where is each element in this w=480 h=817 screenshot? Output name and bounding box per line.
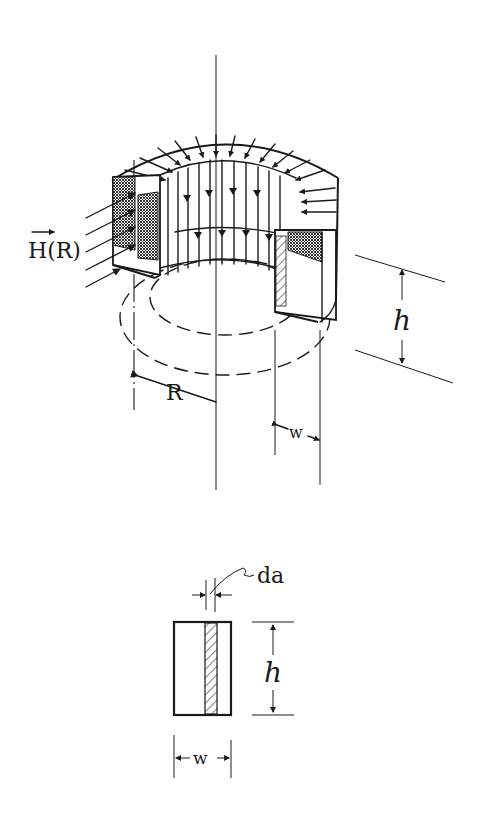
right-cut-section	[275, 178, 338, 322]
hatched-strip	[205, 623, 217, 714]
cs-width-label: w	[193, 748, 208, 768]
w-dim-arrow-left	[277, 425, 288, 429]
w-dim-arrow-right	[308, 436, 319, 440]
diagram-canvas: H(R) R w h da h	[0, 0, 480, 817]
cross-section-view: da h w	[174, 563, 294, 778]
cs-height-label: h	[264, 656, 282, 689]
ring-top-inner-arc	[160, 161, 296, 178]
left-cut-section	[113, 175, 160, 278]
field-label-group: H(R)	[28, 232, 81, 263]
width-label: w	[289, 423, 303, 442]
inner-wall-bottom-arc	[160, 260, 292, 272]
da-leader-line	[210, 568, 254, 594]
cross-section-rectangle	[174, 622, 231, 715]
strip-label: da	[257, 563, 284, 588]
field-label: H(R)	[28, 238, 81, 263]
radius-label: R	[166, 380, 184, 405]
inner-wall-mid-arc	[175, 227, 282, 234]
h-ext-line-top	[355, 255, 445, 282]
toroid-perspective-view: H(R) R w h	[28, 55, 453, 490]
height-label: h	[393, 304, 411, 337]
h-ext-line-bottom	[355, 350, 453, 383]
